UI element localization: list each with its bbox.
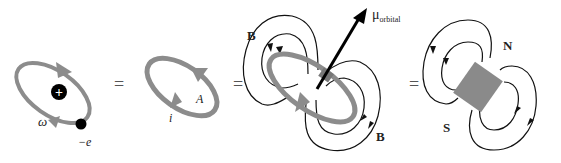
field-label-bottom: B: [376, 129, 385, 144]
magnet-field-arrow-upper-outer: [430, 46, 436, 54]
angular-velocity-label: ω: [38, 114, 47, 129]
equals-sign-3: =: [409, 74, 419, 94]
magnetic-dipole-diagram: + ω −e = A i = B B μorbital =: [0, 0, 561, 163]
bar-magnet: [453, 62, 503, 113]
area-label: A: [195, 92, 204, 106]
panel-current-loop: A i: [137, 47, 227, 127]
current-loop-ring: [258, 41, 365, 134]
panel-bar-magnet: N S: [423, 20, 536, 150]
electron-charge-label: −e: [78, 135, 92, 149]
south-pole-label: S: [443, 120, 450, 135]
panel-orbiting-electron: + ω −e: [6, 51, 100, 149]
current-label: i: [169, 111, 172, 125]
equals-sign-1: =: [114, 74, 124, 94]
panel-loop-with-field: B B μorbital: [243, 7, 401, 151]
field-label-top: B: [247, 28, 256, 43]
orbital-moment-subscript: orbital: [380, 15, 402, 24]
north-pole-label: N: [503, 38, 513, 53]
orbital-moment-arrow-head: [353, 8, 367, 24]
nucleus-plus-sign: +: [55, 85, 63, 100]
orbital-moment-symbol: μ: [372, 7, 380, 22]
current-loop-ring: [137, 47, 227, 127]
orbital-moment-label: μorbital: [372, 7, 401, 24]
electron: [76, 119, 87, 130]
magnet-field-arrow-lower-inner: [514, 106, 521, 114]
equals-sign-2: =: [233, 74, 243, 94]
field-arrow-upper-outer: [267, 43, 273, 52]
